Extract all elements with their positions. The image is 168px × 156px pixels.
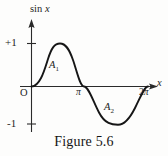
origin-label: O	[20, 88, 28, 99]
y-axis-label-text: sin	[30, 3, 42, 14]
region-label-a1: A1	[49, 60, 59, 73]
sine-curve-plot	[0, 0, 168, 136]
figure-container: sin x x +1 -1 O π 2π A1 A2 Figure 5.6	[0, 0, 168, 156]
y-axis-label-variable: x	[45, 3, 50, 14]
x-tick-label-pi: π	[76, 88, 81, 98]
y-tick-label-negative-one: -1	[7, 118, 16, 129]
y-axis-label: sin x	[30, 4, 50, 15]
x-tick-label-two-pi: 2π	[139, 88, 149, 98]
x-tick-label-two-pi-symbol: π	[144, 87, 149, 97]
figure-caption: Figure 5.6	[0, 134, 168, 150]
y-tick-label-positive-one: +1	[5, 37, 17, 48]
x-axis-label: x	[157, 78, 162, 89]
region-label-a2: A2	[104, 102, 114, 115]
region-label-a2-subscript: 2	[110, 107, 114, 115]
sine-curve	[32, 44, 149, 125]
region-label-a1-subscript: 1	[55, 65, 59, 73]
